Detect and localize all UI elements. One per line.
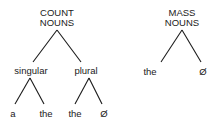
leaf-mass-the: the bbox=[143, 67, 156, 77]
edge-plural-null bbox=[89, 78, 102, 104]
edge-singular-the bbox=[30, 78, 44, 104]
node-plural: plural bbox=[74, 66, 97, 76]
leaf-singular-the: the bbox=[39, 109, 52, 119]
node-singular: singular bbox=[14, 66, 47, 76]
mass-nouns-root: MASS NOUNS bbox=[165, 8, 199, 28]
edge-mass-the bbox=[161, 30, 182, 62]
count-nouns-root: COUNT NOUNS bbox=[40, 8, 74, 28]
count-nouns-line2: NOUNS bbox=[40, 18, 74, 28]
leaf-singular-a: a bbox=[10, 109, 15, 119]
edge-mass-null bbox=[182, 30, 201, 62]
leaf-plural-null: Ø bbox=[100, 109, 107, 119]
mass-nouns-line2: NOUNS bbox=[165, 18, 199, 28]
edge-singular-a bbox=[15, 78, 30, 104]
leaf-plural-the: the bbox=[68, 109, 81, 119]
leaf-mass-null: Ø bbox=[199, 67, 206, 77]
edge-count-plural bbox=[57, 30, 81, 62]
edge-count-singular bbox=[33, 30, 57, 62]
edge-plural-the bbox=[75, 78, 89, 104]
